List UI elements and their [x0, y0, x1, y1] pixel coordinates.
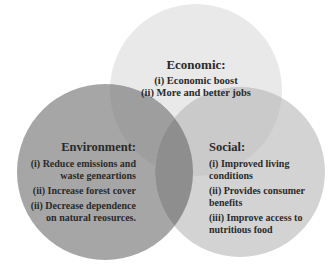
- social-item: (ii) Provides consumer benefits: [209, 185, 319, 209]
- economic-item: (ii) More and better jobs: [110, 87, 282, 100]
- environment-item: (ii) Decrease dependence on natural reos…: [28, 200, 136, 224]
- environment-item: (i) Reduce emissions and waste geneartio…: [28, 158, 136, 182]
- social-title: Social:: [209, 140, 319, 155]
- economic-item: (i) Economic boost: [110, 75, 282, 88]
- economic-text: Economic: (i) Economic boost (ii) More a…: [110, 57, 282, 100]
- environment-title: Environment:: [28, 140, 136, 155]
- economic-title: Economic:: [110, 57, 282, 73]
- environment-item: (ii) Increase forest cover: [28, 185, 136, 197]
- social-item: (iii) Improve access to nutritious food: [209, 212, 319, 236]
- social-item: (i) Improved living conditions: [209, 158, 319, 182]
- social-text: Social: (i) Improved living conditions (…: [209, 140, 319, 239]
- environment-text: Environment: (i) Reduce emissions and wa…: [28, 140, 136, 227]
